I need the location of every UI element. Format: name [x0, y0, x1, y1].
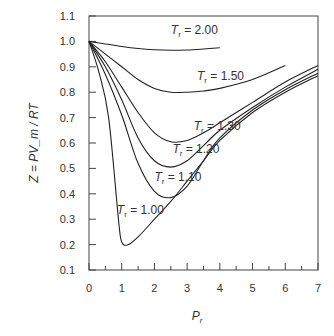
x-tick-label: 3 — [184, 282, 190, 294]
curve-label: Tr = 1.50 — [197, 69, 244, 85]
x-axis-label: Pr — [192, 309, 203, 325]
curve-label: Tr = 1.30 — [194, 119, 241, 135]
x-tick-label: 1 — [119, 282, 125, 294]
y-tick-label: 0.4 — [60, 188, 75, 200]
curve-label: Tr = 1.20 — [172, 142, 219, 158]
x-tick-label: 0 — [86, 282, 92, 294]
x-tick-label: 4 — [217, 282, 223, 294]
x-tick-label: 6 — [282, 282, 288, 294]
x-tick-label: 2 — [151, 282, 157, 294]
y-tick-label: 0.8 — [60, 86, 75, 98]
x-tick-label: 5 — [250, 282, 256, 294]
y-tick-label: 0.9 — [60, 61, 75, 73]
y-tick-label: 1.0 — [60, 35, 75, 47]
y-tick-label: 0.5 — [60, 162, 75, 174]
curve-label: Tr = 1.10 — [154, 170, 201, 186]
y-tick-label: 0.7 — [60, 112, 75, 124]
compressibility-chart: 0.10.20.30.40.50.60.70.80.91.01.10123456… — [0, 0, 334, 336]
curve-label: Tr = 2.00 — [171, 23, 218, 39]
y-tick-label: 1.1 — [60, 10, 75, 22]
y-tick-label: 0.1 — [60, 264, 75, 276]
y-axis-label: Z = PV_m / RT — [27, 102, 41, 184]
x-tick-label: 7 — [315, 282, 321, 294]
curve-200 — [89, 41, 220, 50]
y-tick-label: 0.2 — [60, 239, 75, 251]
curve-150 — [89, 41, 285, 92]
y-tick-label: 0.6 — [60, 137, 75, 149]
curve-label: Tr = 1.00 — [117, 203, 164, 219]
y-tick-label: 0.3 — [60, 213, 75, 225]
